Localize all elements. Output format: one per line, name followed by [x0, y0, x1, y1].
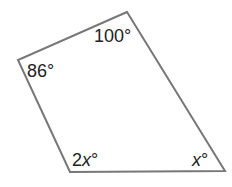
quadrilateral-diagram: 100° 86° 2x° x° [0, 0, 232, 187]
angle-label-bottom-right: x° [191, 150, 208, 170]
angle-label-top: 100° [94, 26, 131, 46]
angle-label-bottom-left: 2x° [72, 150, 98, 170]
angle-label-left: 86° [27, 61, 54, 81]
